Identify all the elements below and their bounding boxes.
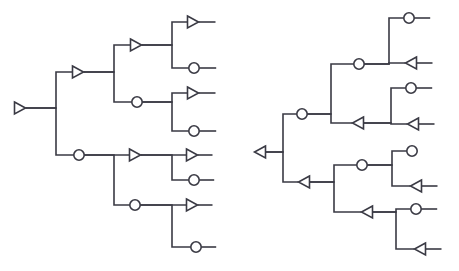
tree-node-R1a_leaf1[interactable] (404, 13, 430, 23)
circle-outline-icon[interactable] (297, 109, 307, 119)
circle-outline-icon[interactable] (130, 200, 140, 210)
tree-edge (364, 123, 408, 124)
triangle-right-outline-icon[interactable] (73, 66, 84, 78)
circle-outline-icon[interactable] (132, 97, 142, 107)
circle-outline-icon[interactable] (354, 59, 364, 69)
tree-node-L2b[interactable] (130, 200, 140, 210)
node-group (15, 16, 217, 252)
tree-edge (26, 72, 73, 108)
tree-node-R1a[interactable] (354, 59, 364, 69)
triangle-left-outline-icon[interactable] (299, 176, 310, 188)
edge-group (26, 22, 191, 247)
tree-edge (141, 155, 189, 180)
tree-edge (307, 114, 352, 123)
triangle-right-outline-icon[interactable] (187, 199, 198, 211)
tree-node-L2b_leaf2[interactable] (191, 242, 216, 252)
tree-edge (364, 63, 405, 64)
triangle-left-outline-icon[interactable] (353, 117, 364, 129)
tree-node-R2b[interactable] (362, 206, 373, 218)
tree-edge (84, 155, 130, 205)
circle-outline-icon[interactable] (189, 126, 199, 136)
tree-node-R1b_leaf2[interactable] (408, 118, 435, 130)
tree-node-R2a_leaf1[interactable] (407, 146, 417, 156)
circle-outline-icon[interactable] (189, 63, 199, 73)
tree-node-L1a_leaf2[interactable] (189, 63, 216, 73)
tree-node-L0[interactable] (15, 102, 26, 114)
triangle-right-outline-icon[interactable] (15, 102, 26, 114)
tree-edge (310, 182, 362, 212)
tree-node-L2a[interactable] (130, 149, 141, 161)
circle-outline-icon[interactable] (357, 160, 367, 170)
tree-edge (373, 212, 415, 249)
triangle-right-outline-icon[interactable] (130, 149, 141, 161)
tree-edge (367, 151, 407, 165)
triangle-left-outline-icon[interactable] (255, 146, 266, 158)
circle-outline-icon[interactable] (189, 175, 199, 185)
triangle-left-outline-icon[interactable] (408, 118, 419, 130)
tree-node-L1b_leaf1[interactable] (188, 87, 216, 99)
tree-node-L2a_leaf1[interactable] (187, 149, 213, 161)
circle-outline-icon[interactable] (406, 83, 416, 93)
tree-edge (26, 108, 74, 155)
diagram-canvas (0, 0, 459, 271)
circle-outline-icon[interactable] (404, 13, 414, 23)
triangle-left-outline-icon[interactable] (415, 243, 426, 255)
tree-node-R1b_leaf1[interactable] (406, 83, 432, 93)
tree-node-R2b_leaf1[interactable] (411, 204, 437, 214)
left-binary-tree (15, 16, 217, 252)
tree-node-R1b[interactable] (353, 117, 364, 129)
triangle-right-outline-icon[interactable] (187, 149, 198, 161)
tree-node-R1[interactable] (297, 109, 307, 119)
triangle-left-outline-icon[interactable] (362, 206, 373, 218)
binary-tree-diagrams (0, 0, 459, 271)
triangle-right-outline-icon[interactable] (131, 39, 142, 51)
tree-node-R2a[interactable] (357, 160, 367, 170)
tree-edge (266, 152, 299, 182)
tree-node-L1a_leaf1[interactable] (188, 16, 216, 28)
tree-node-L1b_leaf2[interactable] (189, 126, 216, 136)
tree-node-R1a_leaf2[interactable] (406, 57, 433, 69)
circle-outline-icon[interactable] (74, 150, 84, 160)
tree-node-L2b_leaf1[interactable] (187, 199, 213, 211)
tree-edge (142, 93, 187, 102)
circle-outline-icon[interactable] (411, 204, 421, 214)
triangle-right-outline-icon[interactable] (188, 87, 199, 99)
triangle-left-outline-icon[interactable] (411, 180, 422, 192)
edge-group (266, 18, 415, 249)
tree-node-L2a_leaf2[interactable] (189, 175, 214, 185)
tree-edge (364, 88, 406, 123)
triangle-left-outline-icon[interactable] (406, 57, 417, 69)
tree-edge (367, 165, 410, 186)
tree-edge (142, 22, 188, 45)
right-binary-tree (255, 13, 442, 255)
tree-node-R2[interactable] (299, 176, 310, 188)
circle-outline-icon[interactable] (407, 146, 417, 156)
tree-node-R2b_leaf2[interactable] (415, 243, 442, 255)
tree-edge (140, 205, 191, 247)
tree-node-L1b[interactable] (132, 97, 142, 107)
tree-edge (84, 45, 131, 72)
tree-edge (266, 114, 297, 152)
tree-node-L1[interactable] (73, 66, 84, 78)
circle-outline-icon[interactable] (191, 242, 201, 252)
tree-node-R2a_leaf2[interactable] (411, 180, 438, 192)
tree-edge (142, 102, 189, 131)
tree-edge (142, 45, 189, 68)
tree-edge (310, 165, 357, 182)
tree-node-L1a[interactable] (131, 39, 142, 51)
tree-edge (307, 64, 354, 114)
tree-edge (364, 18, 404, 64)
tree-edge (84, 72, 132, 102)
tree-node-R0[interactable] (255, 146, 266, 158)
tree-node-L2[interactable] (74, 150, 84, 160)
triangle-right-outline-icon[interactable] (188, 16, 199, 28)
